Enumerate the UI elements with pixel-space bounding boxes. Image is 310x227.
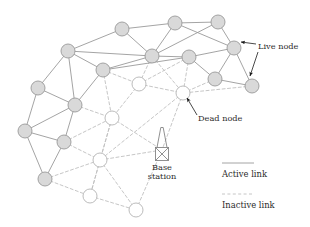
active-link: [175, 23, 234, 48]
live-node[interactable]: [31, 81, 45, 95]
active-link: [68, 51, 75, 105]
legend-group: Active linkInactive link: [221, 163, 276, 210]
live-node[interactable]: [168, 16, 182, 30]
inactive-link: [100, 160, 136, 210]
active-link: [122, 23, 175, 29]
live-node[interactable]: [18, 124, 32, 138]
dead-node[interactable]: [176, 86, 190, 100]
network-graph-canvas: Basestation Live nodeDead node Active li…: [0, 0, 310, 227]
legend-inactive-link-label: Inactive link: [222, 200, 276, 210]
dead-node[interactable]: [105, 111, 119, 125]
dead-node[interactable]: [93, 153, 107, 167]
live-node[interactable]: [61, 44, 75, 58]
live-node[interactable]: [68, 98, 82, 112]
dead-nodes-group: [83, 77, 190, 217]
network-diagram-figure: Basestation Live nodeDead node Active li…: [0, 0, 310, 227]
live-node[interactable]: [245, 79, 259, 93]
base-station-mast-icon: [157, 128, 167, 148]
live-node[interactable]: [57, 135, 71, 149]
active-link: [68, 29, 122, 51]
live-node[interactable]: [96, 63, 110, 77]
inactive-link: [183, 86, 252, 93]
active-link: [25, 105, 75, 131]
active-link: [103, 56, 152, 70]
dead-node-arrow: [187, 98, 197, 115]
live-node[interactable]: [227, 41, 241, 55]
legend-active-link-label: Active link: [221, 169, 268, 179]
live-node-arrow: [250, 52, 258, 76]
dead-node-label: Dead node: [198, 113, 243, 123]
live-node[interactable]: [208, 72, 222, 86]
inactive-link: [112, 118, 162, 150]
live-node[interactable]: [145, 49, 159, 63]
dead-node[interactable]: [129, 203, 143, 217]
base-station-group: Basestation: [148, 128, 177, 182]
live-node[interactable]: [211, 15, 225, 29]
live-node[interactable]: [38, 172, 52, 186]
dead-node[interactable]: [83, 189, 97, 203]
annotations-group: Live nodeDead node: [187, 41, 299, 123]
active-link: [68, 51, 152, 56]
live-node[interactable]: [182, 50, 196, 64]
inactive-link: [64, 118, 112, 142]
active-links-group: [25, 22, 252, 179]
dead-node[interactable]: [132, 77, 146, 91]
inactive-link: [100, 150, 162, 160]
live-node-arrow: [241, 42, 256, 44]
live-node-label: Live node: [258, 41, 299, 51]
base-station-label-line2: station: [148, 171, 177, 181]
active-link: [25, 131, 45, 179]
live-node[interactable]: [115, 22, 129, 36]
